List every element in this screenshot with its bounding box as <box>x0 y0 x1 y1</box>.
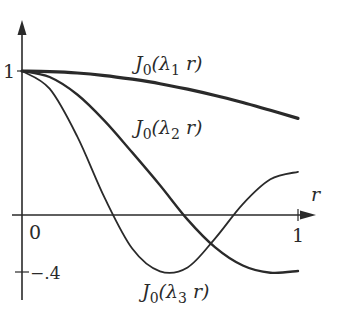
y-tick-label-neg: −.4 <box>30 263 60 283</box>
label-j0-lambda3: J0(λ3 r) <box>138 280 209 306</box>
y-tick-label-1: 1 <box>3 60 15 82</box>
curve-j0-lambda3 <box>22 71 298 273</box>
x-axis-arrow-icon <box>300 211 316 220</box>
x-tick-label-0: 0 <box>29 221 41 243</box>
label-j0-lambda2: J0(λ2 r) <box>131 116 202 142</box>
curves <box>22 71 298 273</box>
bessel-chart: 1 −.4 0 1 r J0(λ1 r) J0(λ2 r) J0(λ3 r) <box>0 0 337 317</box>
label-j0-lambda1: J0(λ1 r) <box>131 52 202 78</box>
x-tick-label-1: 1 <box>292 224 304 246</box>
x-axis-label: r <box>311 183 322 205</box>
y-axis-arrow-icon <box>18 20 27 35</box>
curve-j0-lambda2 <box>22 71 298 273</box>
